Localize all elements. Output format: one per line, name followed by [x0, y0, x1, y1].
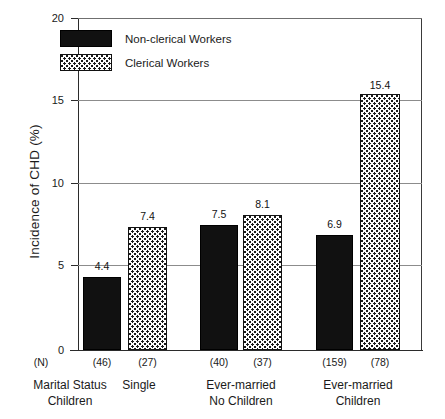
x-axis-group-single: Single — [86, 378, 192, 394]
x-axis-group-ever-married-no-children-line2: No Children — [186, 394, 296, 410]
n-value-single-non-clerical: (46) — [79, 356, 125, 368]
bar-chart: Incidence of CHD (%) 20 15 10 5 0 4.4 7.… — [0, 0, 445, 419]
x-axis-group-ever-married-no-children-line1: Ever-married — [186, 378, 296, 394]
legend-label-clerical: Clerical Workers — [125, 57, 209, 69]
legend: Non-clerical Workers Clerical Workers — [60, 30, 290, 78]
bar-value-ever-married-children-non-clerical: 6.9 — [312, 218, 357, 230]
bar-ever-married-children-clerical — [360, 94, 400, 350]
legend-swatch-non-clerical-icon — [60, 30, 112, 47]
x-axis-group-ever-married-children-line1: Ever-married — [303, 378, 413, 394]
x-axis-row-header-line2: Children — [0, 394, 140, 410]
x-axis-group-ever-married-children: Ever-married Children — [303, 378, 413, 409]
legend-item-non-clerical: Non-clerical Workers — [60, 30, 290, 47]
bar-value-single-clerical: 7.4 — [124, 210, 171, 222]
legend-label-non-clerical: Non-clerical Workers — [125, 33, 232, 45]
n-value-ever-married-no-children-non-clerical: (40) — [196, 356, 242, 368]
x-axis-group-labels: Marital Status Children Single Ever-marr… — [0, 378, 445, 419]
n-value-ever-married-children-clerical: (78) — [356, 356, 404, 368]
bar-single-non-clerical — [83, 277, 121, 350]
bar-single-clerical — [128, 227, 167, 350]
x-axis-group-ever-married-no-children: Ever-married No Children — [186, 378, 296, 409]
legend-item-clerical: Clerical Workers — [60, 54, 290, 71]
n-row-header: (N) — [23, 356, 59, 368]
bar-value-ever-married-no-children-clerical: 8.1 — [239, 198, 286, 210]
bar-value-ever-married-no-children-non-clerical: 7.5 — [196, 208, 242, 220]
x-axis-line — [70, 350, 423, 351]
x-axis-group-ever-married-children-line2: Children — [303, 394, 413, 410]
n-value-ever-married-children-non-clerical: (159) — [310, 356, 359, 368]
bar-ever-married-children-non-clerical — [316, 235, 353, 350]
n-value-single-clerical: (27) — [124, 356, 171, 368]
legend-swatch-clerical-icon — [60, 54, 112, 71]
bar-value-single-non-clerical: 4.4 — [79, 260, 125, 272]
sample-size-row: (N) (46) (27) (40) (37) (159) (78) — [0, 356, 445, 372]
bar-ever-married-no-children-non-clerical — [200, 225, 238, 350]
n-value-ever-married-no-children-clerical: (37) — [239, 356, 286, 368]
x-axis-group-single-line1: Single — [86, 378, 192, 394]
bar-ever-married-no-children-clerical — [243, 215, 282, 350]
bar-value-ever-married-children-clerical: 15.4 — [356, 79, 404, 91]
